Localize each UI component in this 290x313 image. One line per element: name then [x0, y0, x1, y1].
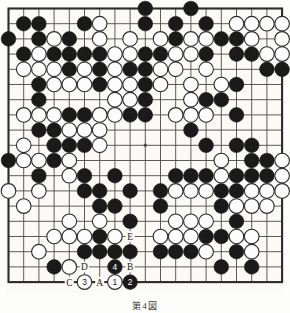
black-stone[interactable] [32, 16, 47, 31]
black-stone[interactable] [184, 244, 199, 259]
white-stone[interactable] [1, 184, 16, 199]
white-stone[interactable] [32, 244, 47, 259]
white-stone[interactable] [108, 92, 123, 107]
white-stone[interactable] [123, 77, 138, 92]
black-stone[interactable] [214, 199, 229, 214]
numbered-move-stone[interactable]: 2 [123, 275, 138, 290]
black-stone[interactable] [123, 214, 138, 229]
black-stone[interactable] [229, 108, 244, 123]
black-stone[interactable] [199, 92, 214, 107]
black-stone[interactable] [199, 229, 214, 244]
white-stone[interactable] [168, 62, 183, 77]
white-stone[interactable] [260, 47, 275, 62]
white-stone[interactable] [32, 62, 47, 77]
white-stone[interactable] [16, 108, 31, 123]
white-stone[interactable] [184, 47, 199, 62]
white-stone[interactable] [153, 62, 168, 77]
black-stone[interactable] [32, 92, 47, 107]
black-stone[interactable] [123, 184, 138, 199]
black-stone[interactable] [153, 199, 168, 214]
black-stone[interactable] [123, 244, 138, 259]
white-stone[interactable] [199, 184, 214, 199]
black-stone[interactable] [229, 244, 244, 259]
white-stone[interactable] [244, 199, 259, 214]
black-stone[interactable] [92, 77, 107, 92]
white-stone[interactable] [199, 214, 214, 229]
white-stone[interactable] [108, 108, 123, 123]
black-stone[interactable] [260, 168, 275, 183]
white-stone[interactable] [62, 168, 77, 183]
white-stone[interactable] [108, 229, 123, 244]
black-stone[interactable] [260, 153, 275, 168]
white-stone[interactable] [92, 123, 107, 138]
white-stone[interactable] [62, 214, 77, 229]
black-stone[interactable] [108, 244, 123, 259]
white-stone[interactable] [214, 153, 229, 168]
white-stone[interactable] [123, 47, 138, 62]
black-stone[interactable] [214, 184, 229, 199]
white-stone[interactable] [62, 123, 77, 138]
black-stone[interactable] [77, 16, 92, 31]
white-stone[interactable] [16, 62, 31, 77]
black-stone[interactable] [275, 62, 290, 77]
black-stone[interactable] [108, 168, 123, 183]
black-stone[interactable] [62, 62, 77, 77]
white-stone[interactable] [108, 77, 123, 92]
black-stone[interactable] [229, 32, 244, 47]
white-stone[interactable] [62, 77, 77, 92]
white-stone[interactable] [47, 62, 62, 77]
white-stone[interactable] [214, 168, 229, 183]
black-stone[interactable] [153, 244, 168, 259]
white-stone[interactable] [47, 77, 62, 92]
white-stone[interactable] [16, 153, 31, 168]
white-stone[interactable] [275, 16, 290, 31]
white-stone[interactable] [168, 229, 183, 244]
black-stone[interactable] [138, 62, 153, 77]
black-stone[interactable] [47, 138, 62, 153]
black-stone[interactable] [260, 62, 275, 77]
white-stone[interactable] [77, 77, 92, 92]
black-stone[interactable] [108, 199, 123, 214]
white-stone[interactable] [62, 260, 77, 275]
black-stone[interactable] [138, 77, 153, 92]
black-stone[interactable] [229, 168, 244, 183]
black-stone[interactable] [229, 77, 244, 92]
white-stone[interactable] [260, 16, 275, 31]
black-stone[interactable] [92, 62, 107, 77]
white-stone[interactable] [32, 153, 47, 168]
white-stone[interactable] [184, 32, 199, 47]
black-stone[interactable] [92, 244, 107, 259]
black-stone[interactable] [32, 32, 47, 47]
white-stone[interactable] [244, 16, 259, 31]
white-stone[interactable] [184, 184, 199, 199]
black-stone[interactable] [199, 168, 214, 183]
white-stone[interactable] [92, 108, 107, 123]
black-stone[interactable] [184, 168, 199, 183]
black-stone[interactable] [92, 229, 107, 244]
black-stone[interactable] [184, 123, 199, 138]
black-stone[interactable] [168, 244, 183, 259]
white-stone[interactable] [92, 214, 107, 229]
white-stone[interactable] [275, 32, 290, 47]
white-stone[interactable] [184, 77, 199, 92]
black-stone[interactable] [47, 47, 62, 62]
black-stone[interactable] [229, 138, 244, 153]
black-stone[interactable] [199, 16, 214, 31]
white-stone[interactable] [62, 229, 77, 244]
white-stone[interactable] [16, 138, 31, 153]
white-stone[interactable] [244, 244, 259, 259]
black-stone[interactable] [47, 153, 62, 168]
black-stone[interactable] [229, 47, 244, 62]
black-stone[interactable] [138, 1, 153, 16]
white-stone[interactable] [244, 229, 259, 244]
black-stone[interactable] [32, 168, 47, 183]
white-stone[interactable] [275, 153, 290, 168]
white-stone[interactable] [244, 32, 259, 47]
black-stone[interactable] [184, 1, 199, 16]
black-stone[interactable] [92, 184, 107, 199]
white-stone[interactable] [92, 32, 107, 47]
black-stone[interactable] [138, 47, 153, 62]
black-stone[interactable] [214, 92, 229, 107]
white-stone[interactable] [47, 229, 62, 244]
black-stone[interactable] [214, 32, 229, 47]
